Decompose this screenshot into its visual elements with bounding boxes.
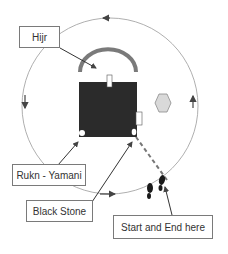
- hijr-arc: [80, 49, 136, 72]
- kaaba-door-side: [136, 112, 142, 125]
- hijr-pointer: [60, 48, 96, 68]
- black-stone-label: Black Stone: [26, 200, 93, 222]
- rukn-yamani-pointer: [58, 142, 78, 165]
- rukn-yamani-label-text: Rukn - Yamani: [16, 170, 81, 181]
- start-end-label-text: Start and End here: [121, 222, 205, 233]
- black-stone-label-text: Black Stone: [33, 206, 86, 217]
- start-dashed-line: [136, 137, 167, 180]
- kaaba-door-top: [107, 75, 112, 87]
- footprints-icon: [147, 174, 166, 199]
- hexagon-icon: [155, 94, 171, 112]
- rukn-yamani-corner: [79, 130, 85, 136]
- start-pointer: [165, 187, 172, 215]
- black-stone-pointer: [92, 142, 132, 202]
- black-stone-corner: [132, 129, 137, 135]
- hijr-label-text: Hijr: [32, 32, 47, 43]
- rukn-yamani-label: Rukn - Yamani: [12, 164, 86, 186]
- kaaba: [79, 82, 137, 137]
- hijr-label: Hijr: [19, 26, 60, 48]
- start-end-label: Start and End here: [113, 215, 213, 239]
